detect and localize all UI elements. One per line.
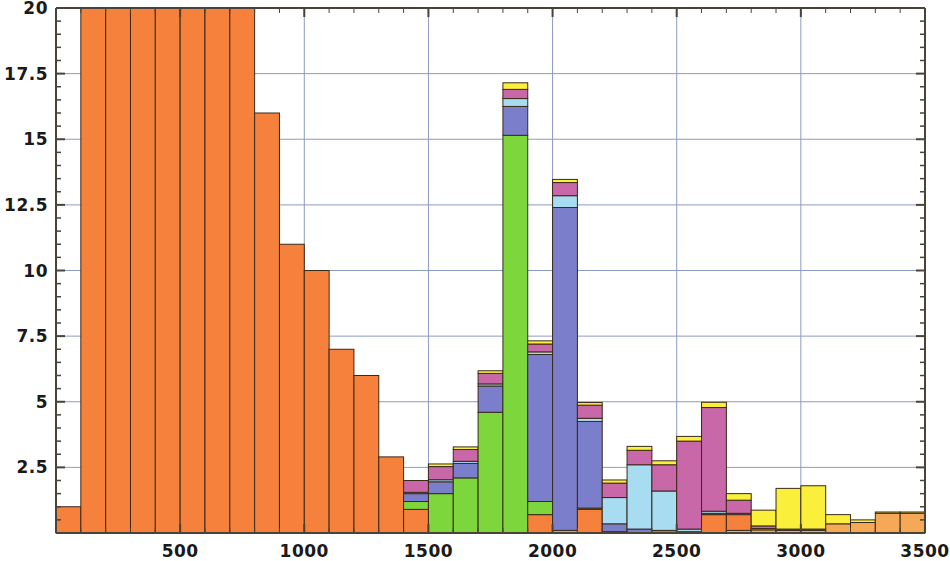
histogram-bar	[726, 500, 751, 513]
histogram-bar	[751, 510, 776, 526]
x-axis-tick-label: 500	[162, 541, 199, 561]
histogram-bar	[826, 524, 851, 533]
histogram-bar	[503, 106, 528, 135]
histogram-bar	[453, 450, 478, 462]
histogram-bar	[577, 421, 602, 508]
histogram-bar	[478, 412, 503, 533]
x-axis-tick-label: 2500	[652, 541, 701, 561]
histogram-bar	[602, 524, 627, 532]
x-axis-tick-label: 3000	[776, 541, 825, 561]
y-axis-tick-label: 17.5	[4, 64, 48, 84]
y-axis-tick-label: 10	[23, 261, 48, 281]
histogram-bar	[652, 465, 677, 491]
histogram-bar	[503, 83, 528, 90]
histogram-bar	[677, 436, 702, 441]
histogram-bar	[404, 481, 429, 493]
histogram-bar	[553, 179, 578, 182]
x-axis-tick-label: 1500	[404, 541, 453, 561]
histogram-bar	[329, 349, 354, 533]
histogram-bar	[453, 478, 478, 533]
histogram-bar	[230, 4, 255, 533]
histogram-bar	[528, 355, 553, 502]
histogram-bar	[528, 502, 553, 515]
histogram-bar	[726, 494, 751, 501]
histogram-bar	[354, 376, 379, 534]
histogram-bar	[404, 509, 429, 533]
y-axis-tick-label: 12.5	[4, 195, 48, 215]
histogram-bar	[776, 488, 801, 529]
histogram-bar	[428, 464, 453, 467]
top-clip	[0, 0, 943, 8]
histogram-bar	[577, 509, 602, 533]
histogram-bar	[478, 373, 503, 384]
histogram-bar	[528, 344, 553, 352]
histogram-bar	[379, 457, 404, 533]
x-axis-tick-label: 2000	[528, 541, 577, 561]
histogram-bar	[528, 341, 553, 344]
histogram-bar	[677, 441, 702, 529]
histogram-bar	[577, 403, 602, 406]
histogram-bar	[180, 4, 205, 533]
y-axis-tick-label: 5	[36, 392, 48, 412]
histogram-bar	[652, 491, 677, 530]
histogram-bar	[652, 461, 677, 465]
histogram-bar	[875, 513, 900, 533]
histogram-bar	[428, 482, 453, 494]
histogram-bar	[453, 463, 478, 477]
histogram-bar	[428, 494, 453, 533]
histogram-bar	[453, 447, 478, 450]
histogram-bar	[702, 402, 727, 407]
histogram-bar	[602, 480, 627, 483]
histogram-bar	[801, 486, 826, 529]
histogram-bar	[404, 494, 429, 502]
histogram-bar	[478, 371, 503, 374]
histogram-bar	[627, 450, 652, 464]
histogram-bar	[130, 4, 155, 533]
y-axis-tick-label: 20	[23, 0, 48, 18]
histogram-bar	[900, 512, 925, 513]
histogram-bar	[155, 4, 180, 533]
y-axis-tick-label: 2.5	[16, 457, 48, 477]
histogram-bar	[702, 408, 727, 512]
histogram-bar	[875, 512, 900, 513]
histogram-bar	[528, 515, 553, 533]
x-axis-tick-label: 1000	[280, 541, 329, 561]
histogram-bar	[627, 465, 652, 529]
histogram-bar	[553, 208, 578, 531]
histogram-bar	[577, 405, 602, 418]
histogram-bar	[404, 502, 429, 510]
x-axis-tick-label: 3500	[900, 541, 949, 561]
histogram-bar	[900, 513, 925, 533]
histogram-bar	[81, 4, 106, 533]
histogram-bar	[553, 183, 578, 196]
histogram-bar	[503, 89, 528, 98]
histogram-bar	[553, 196, 578, 208]
histogram-bar	[279, 244, 304, 533]
histogram-bar	[726, 515, 751, 531]
histogram-bar	[627, 446, 652, 450]
histogram-bar	[826, 515, 851, 524]
histogram-bar	[851, 523, 876, 534]
histogram-bar	[702, 515, 727, 533]
histogram-bar	[602, 483, 627, 497]
y-axis-tick-label: 15	[23, 129, 48, 149]
histogram-bar	[503, 99, 528, 107]
histogram-bar	[602, 498, 627, 524]
histogram-bar	[478, 386, 503, 412]
histogram-bar	[428, 467, 453, 480]
y-axis-tick-label: 7.5	[16, 326, 48, 346]
histogram-bar	[205, 4, 230, 533]
histogram-bar	[304, 271, 329, 534]
histogram-bar	[851, 520, 876, 523]
histogram-bar	[503, 135, 528, 533]
histogram-bar	[106, 4, 131, 533]
histogram-bar	[255, 113, 280, 533]
